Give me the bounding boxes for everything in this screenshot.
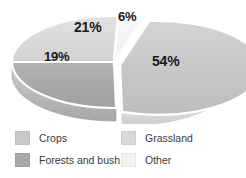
legend-label-grassland: Grassland (145, 133, 193, 144)
pie-chart-plot: 54% 6% 21% 19% (0, 0, 246, 124)
pie-label-other: 6% (118, 10, 136, 23)
legend-row: Forests and bush Other (0, 149, 246, 171)
legend-label-forests-and-bush: Forests and bush (39, 155, 120, 166)
legend-label-other: Other (145, 155, 171, 166)
legend-item-other[interactable]: Other (121, 149, 171, 171)
legend-label-crops: Crops (39, 133, 67, 144)
legend-swatch-forests-and-bush (15, 153, 30, 167)
legend-swatch-other (121, 153, 136, 167)
legend-item-grassland[interactable]: Grassland (121, 127, 193, 149)
legend-swatch-crops (15, 131, 30, 145)
legend-swatch-grassland (121, 131, 136, 145)
pie-label-grassland: 21% (74, 20, 101, 34)
pie-slice-forests-and-bush[interactable] (12, 62, 116, 108)
pie-chart-figure: 54% 6% 21% 19% Crops Grassland Forests a… (0, 0, 246, 178)
pie-slice-crops[interactable] (120, 21, 246, 115)
pie-label-forests-and-bush: 19% (44, 50, 69, 63)
legend-item-forests-and-bush[interactable]: Forests and bush (15, 149, 120, 171)
legend-row: Crops Grassland (0, 127, 246, 149)
pie-label-crops: 54% (152, 54, 179, 68)
chart-legend: Crops Grassland Forests and bush Other (0, 124, 246, 178)
legend-item-crops[interactable]: Crops (15, 127, 67, 149)
